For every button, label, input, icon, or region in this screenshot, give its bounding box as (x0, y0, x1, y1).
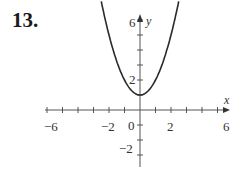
x-tick-label-2: 2 (167, 119, 174, 134)
x-axis-label: x (223, 93, 230, 107)
x-tick-label-0: 0 (128, 118, 135, 133)
y-tick-label-neg2: −2 (119, 141, 133, 156)
y-axis-arrow-icon (137, 14, 143, 22)
x-axis (45, 107, 228, 113)
x-tick-label-neg6: −6 (44, 119, 58, 134)
y-axis-label: y (145, 14, 152, 28)
x-tick-label-6: 6 (223, 119, 230, 134)
y-tick-label-6: 6 (129, 15, 136, 30)
graph: x y −6 −2 0 2 6 6 2 −2 (0, 0, 236, 170)
x-tick-label-neg2: −2 (101, 119, 115, 134)
y-axis (137, 20, 143, 167)
x-axis-arrow-icon (223, 107, 230, 113)
y-tick-label-2: 2 (129, 72, 136, 87)
